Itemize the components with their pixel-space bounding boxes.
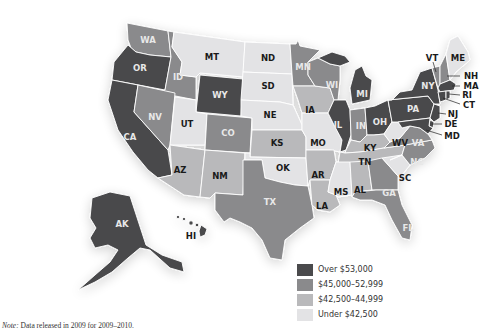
label-MO: MO [310, 138, 326, 148]
us-states-map: WA OR CA ID NV MT WY UT CO AZ NM ND SD N… [0, 0, 488, 330]
label-NJ: NJ [448, 109, 458, 119]
legend-item-over-53000: Over $53,000 [297, 262, 383, 277]
label-PA: PA [407, 104, 419, 114]
label-TX: TX [264, 197, 277, 207]
label-NV: NV [148, 112, 162, 122]
legend-label: $42,500–44,999 [318, 295, 383, 304]
label-FL: FL [402, 223, 414, 233]
state-RI[interactable] [446, 91, 450, 100]
label-MN: MN [295, 62, 311, 72]
legend-swatch [297, 264, 313, 276]
legend-swatch [297, 279, 313, 291]
label-TN: TN [359, 157, 372, 167]
label-AZ: AZ [174, 165, 187, 175]
map-legend: Over $53,000 $45,000–52,999 $42,500–44,9… [297, 262, 383, 322]
label-AR: AR [311, 170, 325, 180]
label-GA: GA [382, 188, 396, 198]
state-AK[interactable] [78, 192, 184, 290]
label-CO: CO [221, 128, 234, 138]
label-MI: MI [356, 89, 368, 99]
legend-item-under-42500: Under $42,500 [297, 307, 383, 322]
legend-label: $45,000–52,999 [318, 280, 383, 289]
alaska-hawaii [78, 192, 207, 290]
footnote: Note: Data released in 2009 for 2009–201… [2, 321, 134, 330]
label-NC: NC [410, 157, 423, 167]
label-KY: KY [364, 143, 378, 153]
label-VA: VA [412, 138, 425, 148]
label-AK: AK [115, 219, 129, 229]
label-WV: WV [392, 138, 408, 148]
label-IN: IN [356, 121, 366, 131]
label-OH: OH [373, 117, 387, 127]
legend-item-45000-52999: $45,000–52,999 [297, 277, 383, 292]
legend-item-42500-44999: $42,500–44,999 [297, 292, 383, 307]
label-NY: NY [421, 81, 435, 91]
label-WI: WI [326, 80, 339, 90]
label-CT: CT [463, 100, 475, 110]
legend-label: Under $42,500 [318, 310, 378, 319]
label-MD: MD [444, 131, 460, 141]
label-OR: OR [133, 63, 147, 73]
legend-swatch [297, 309, 313, 321]
label-AL: AL [354, 185, 367, 195]
label-NH: NH [464, 71, 478, 81]
legend-swatch [297, 294, 313, 306]
label-ME: ME [451, 53, 465, 63]
label-KS: KS [271, 138, 284, 148]
label-IL: IL [334, 120, 343, 130]
label-NE: NE [264, 110, 277, 120]
label-SD: SD [261, 81, 274, 91]
label-IA: IA [305, 105, 315, 115]
label-SC: SC [399, 173, 411, 183]
label-MT: MT [205, 52, 219, 62]
label-DE: DE [445, 119, 458, 129]
note-text: Data released in 2009 for 2009–2010. [19, 321, 134, 330]
state-FL[interactable] [352, 190, 412, 240]
label-ND: ND [261, 53, 275, 63]
label-NM: NM [212, 171, 228, 181]
label-ID: ID [173, 72, 183, 82]
label-UT: UT [181, 119, 194, 129]
legend-label: Over $53,000 [318, 265, 373, 274]
label-HI: HI [186, 231, 196, 241]
label-OK: OK [276, 163, 290, 173]
label-VT: VT [426, 53, 439, 63]
label-LA: LA [316, 201, 328, 211]
label-WY: WY [212, 90, 228, 100]
label-MS: MS [334, 187, 349, 197]
label-WA: WA [140, 35, 156, 45]
label-RI: RI [462, 90, 472, 100]
label-CA: CA [124, 132, 137, 142]
note-prefix: Note: [2, 321, 19, 330]
